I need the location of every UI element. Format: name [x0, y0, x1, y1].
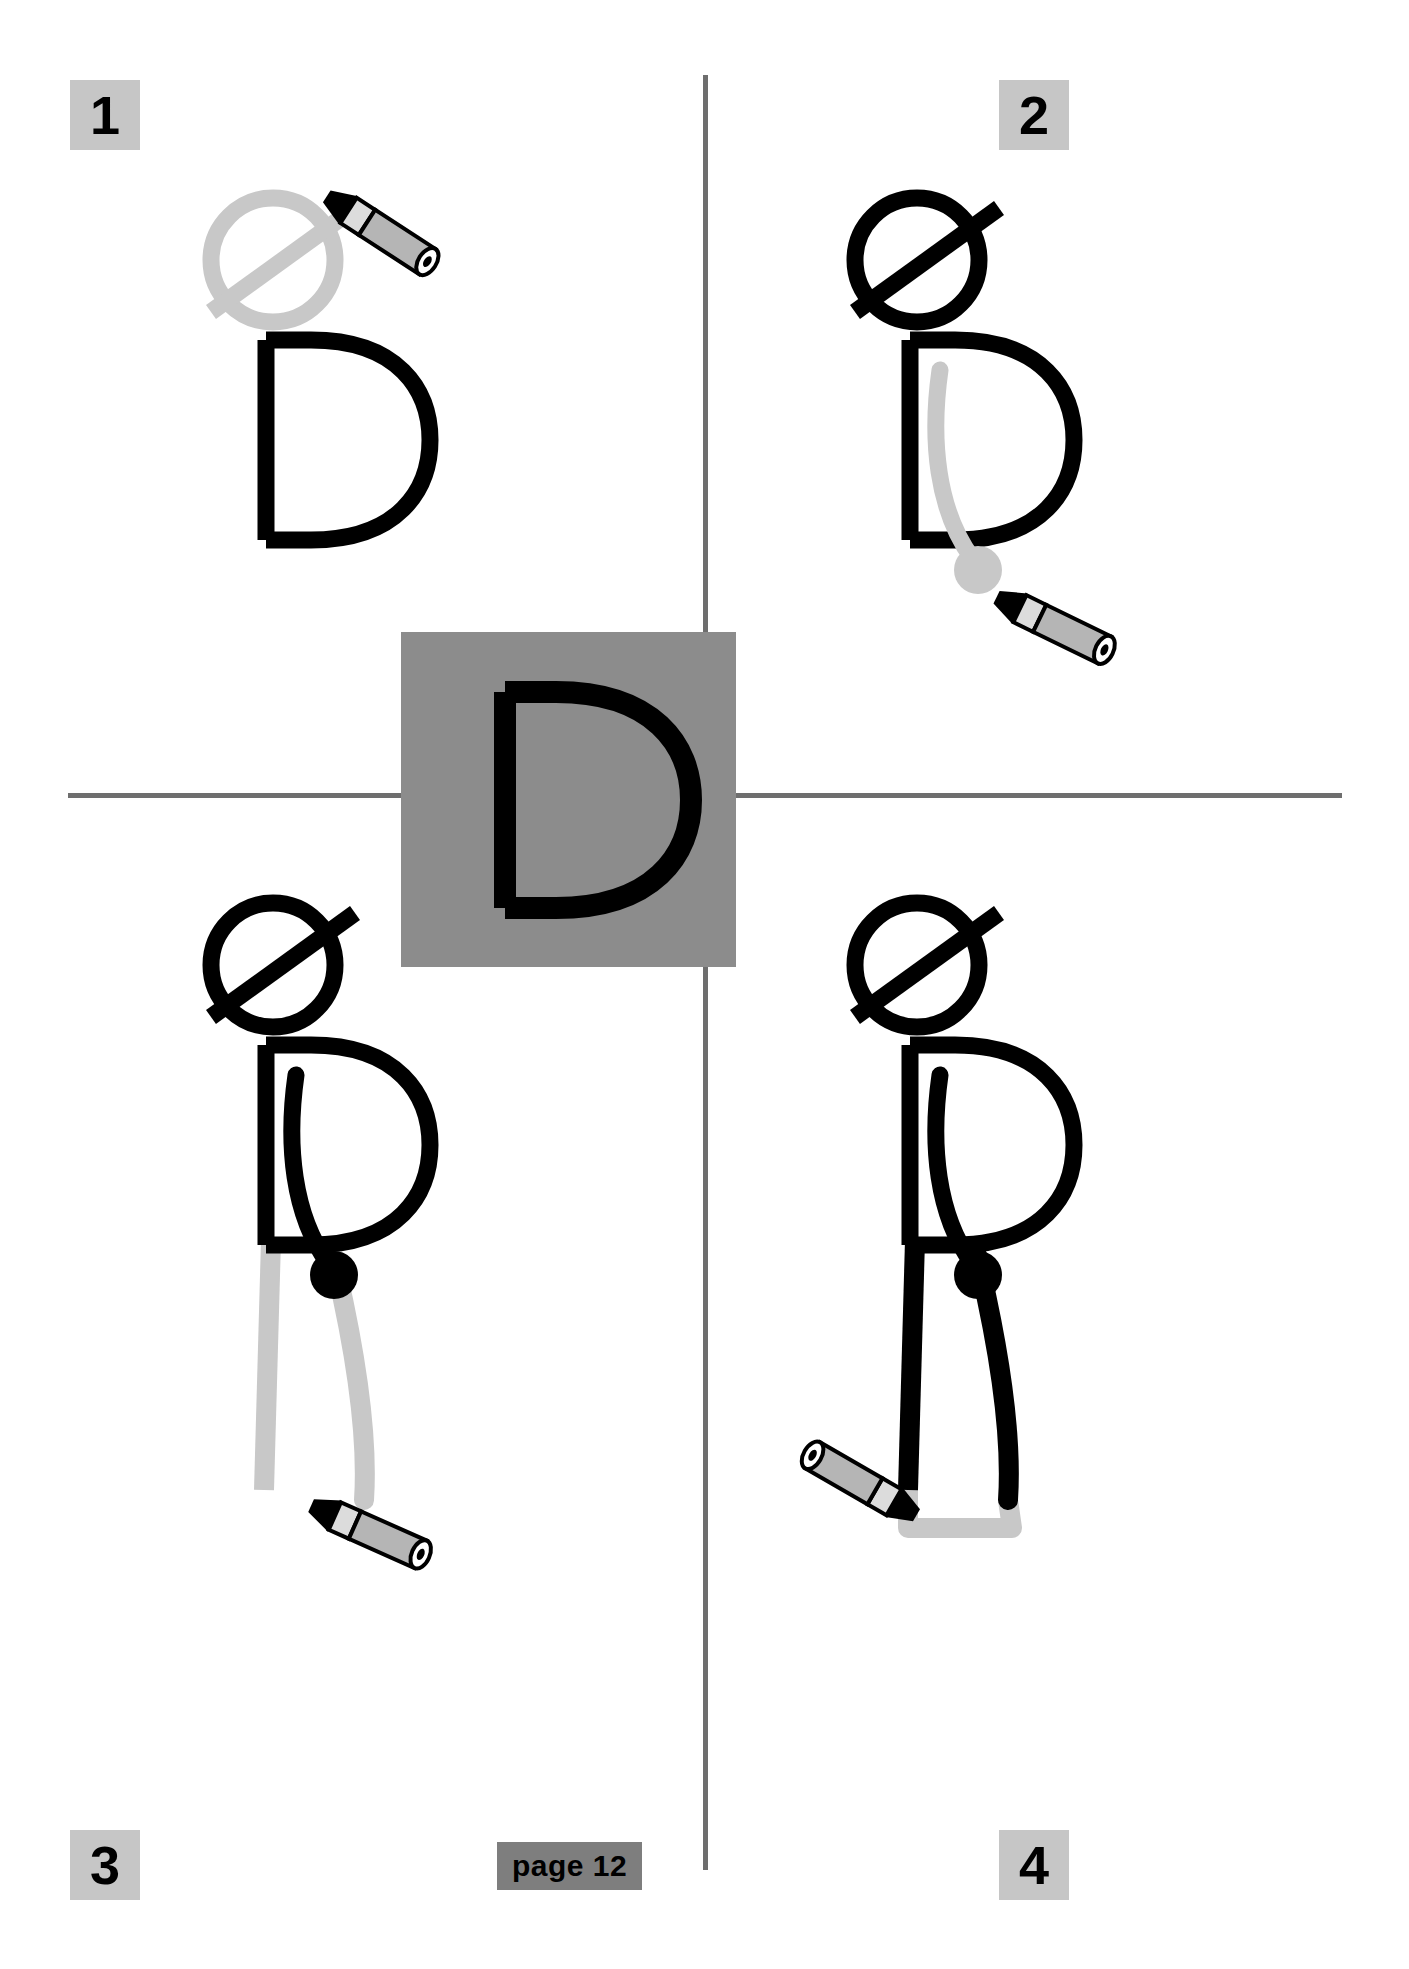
head-circle-icon	[211, 903, 355, 1027]
hand-dot-icon	[954, 1251, 1002, 1299]
hand-dot-icon	[954, 546, 1002, 594]
arm-stroke-icon	[936, 370, 1002, 594]
pencil-icon	[989, 582, 1120, 669]
foot-stroke-icon	[908, 1490, 1012, 1528]
step-number-badge-3: 3	[70, 1830, 140, 1900]
step-number-badge-2: 2	[999, 80, 1069, 150]
vertical-divider	[703, 75, 708, 1870]
step-number-badge-4: 4	[999, 1830, 1069, 1900]
hand-dot-icon	[310, 1251, 358, 1299]
page-number-label: page 12	[497, 1842, 642, 1890]
reference-letter-panel	[401, 632, 736, 967]
letter-d-icon	[266, 340, 430, 540]
head-circle-icon	[211, 198, 355, 322]
head-circle-icon	[855, 198, 999, 322]
arm-stroke-icon	[292, 1075, 358, 1299]
worksheet-page: 1 2 3 4 page 12	[0, 0, 1409, 1969]
letter-d-icon	[401, 632, 736, 967]
step-number-badge-1: 1	[70, 80, 140, 150]
head-circle-icon	[855, 903, 999, 1027]
arm-stroke-icon	[936, 1075, 1002, 1299]
step-2-panel	[712, 90, 1342, 790]
step-4-panel	[712, 800, 1342, 1870]
